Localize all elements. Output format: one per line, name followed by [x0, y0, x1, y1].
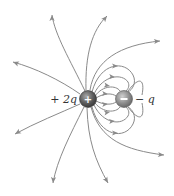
field-line-inner-top — [95, 87, 120, 96]
plus-sign-icon: + — [84, 94, 92, 105]
arrowhead-icon — [50, 177, 56, 183]
field-line-down-right — [87, 108, 108, 183]
arrowhead-icon — [49, 15, 54, 21]
electric-field-diagram: + + 2q − q — [0, 0, 174, 196]
field-line-down-left — [53, 107, 84, 183]
arrowhead-icon — [109, 74, 115, 80]
negative-charge-label: − q — [135, 93, 155, 106]
field-line-right-up — [90, 41, 160, 90]
arrowhead-icon — [109, 118, 115, 124]
arrowhead-icon — [14, 129, 22, 137]
arrowhead-icon — [102, 101, 108, 107]
field-line-up-right — [86, 16, 107, 90]
negative-charge — [116, 91, 133, 108]
positive-charge-label: + 2q — [50, 93, 77, 106]
minus-sign-icon — [121, 98, 128, 100]
field-line-left-down — [15, 104, 80, 134]
field-line-left-up — [13, 62, 80, 94]
arrowhead-icon — [102, 91, 108, 97]
arrowhead-icon — [103, 177, 111, 185]
arrowhead-icon — [12, 60, 19, 67]
positive-charge: + — [80, 91, 97, 108]
